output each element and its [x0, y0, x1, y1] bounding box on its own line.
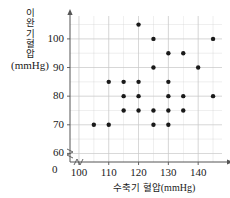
- data-point: [196, 65, 200, 69]
- data-point: [181, 51, 185, 55]
- y-axis-title-line-5: 압: [2, 49, 58, 59]
- y-tick-label: 80: [38, 89, 64, 101]
- x-axis-title: 수축기 혈압(mmHg): [80, 180, 228, 194]
- data-point: [211, 37, 215, 41]
- data-point: [136, 22, 140, 26]
- y-tick-label: 100: [38, 32, 64, 44]
- x-tick-label: 120: [126, 166, 152, 178]
- data-point: [151, 37, 155, 41]
- x-tick-label: 140: [185, 166, 211, 178]
- x-tick-label: 110: [96, 166, 122, 178]
- origin-label: 0: [52, 163, 58, 175]
- x-tick-label: 100: [66, 166, 92, 178]
- data-point: [107, 80, 111, 84]
- data-point: [166, 123, 170, 127]
- y-tick-label: 90: [38, 61, 64, 73]
- data-point: [211, 94, 215, 98]
- y-tick-label: 70: [38, 118, 64, 130]
- data-point: [151, 123, 155, 127]
- data-point: [166, 80, 170, 84]
- plot-area: [70, 16, 222, 162]
- x-axis-title-korean: 수축기 혈압: [113, 182, 161, 193]
- data-point: [166, 94, 170, 98]
- data-point: [181, 94, 185, 98]
- data-point: [136, 108, 140, 112]
- x-tick-label: 130: [155, 166, 181, 178]
- data-point: [151, 65, 155, 69]
- data-point: [166, 51, 170, 55]
- y-axis-title-line-2: 완: [2, 18, 58, 28]
- data-point: [166, 108, 170, 112]
- data-point: [151, 108, 155, 112]
- data-point: [181, 108, 185, 112]
- x-axis-unit-label: (mmHg): [161, 182, 195, 193]
- data-point: [136, 94, 140, 98]
- data-points-layer: [70, 16, 222, 162]
- data-point: [107, 123, 111, 127]
- data-point: [121, 108, 125, 112]
- data-point: [121, 94, 125, 98]
- y-tick-label: 60: [38, 146, 64, 158]
- data-point: [92, 123, 96, 127]
- data-point: [136, 80, 140, 84]
- scatter-plot-figure: 이 완 기 혈 압 (mmHg) 수축기 혈압(mmHg) 0 60708090…: [0, 0, 230, 198]
- data-point: [121, 80, 125, 84]
